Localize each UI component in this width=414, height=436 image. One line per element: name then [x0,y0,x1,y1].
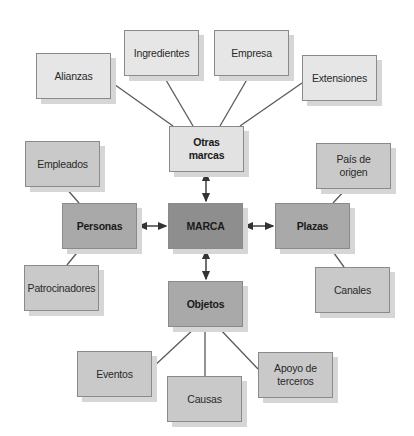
node-label: Eventos [96,368,133,381]
node-canales: Canales [315,267,390,313]
brand-association-diagram: Alianzas Ingredientes Empresa Extensione… [0,0,414,436]
node-label: Personas [77,220,123,233]
node-ingredientes: Ingredientes [124,30,199,76]
node-label: Empresa [231,47,272,60]
node-label: Empleados [37,158,88,171]
node-extensiones: Extensiones [302,55,377,101]
node-marca: MARCA [168,203,243,249]
node-empresa: Empresa [214,30,289,76]
node-patrocinadores: Patrocinadores [24,265,99,311]
node-causas: Causas [167,376,242,422]
node-label: Causas [187,393,221,406]
node-label: Patrocinadores [28,282,96,295]
node-apoyo-de-terceros: Apoyo de terceros [258,352,333,398]
node-empleados: Empleados [25,141,100,187]
node-label: Plazas [297,220,329,233]
node-label: MARCA [186,220,224,233]
node-pais-de-origen: País de origen [316,143,391,189]
node-label: Objetos [187,298,225,311]
node-label: Extensiones [312,72,367,85]
node-eventos: Eventos [77,351,152,397]
node-objetos: Objetos [168,281,243,327]
node-label: Alianzas [54,70,92,83]
node-label: Otras marcas [189,136,225,162]
node-label: Canales [334,284,371,297]
node-label: País de origen [336,153,370,179]
node-alianzas: Alianzas [36,53,111,99]
node-plazas: Plazas [275,203,350,249]
node-label: Ingredientes [134,47,189,60]
node-otras-marcas: Otras marcas [169,126,244,172]
node-label: Apoyo de terceros [274,362,317,388]
node-personas: Personas [62,203,137,249]
